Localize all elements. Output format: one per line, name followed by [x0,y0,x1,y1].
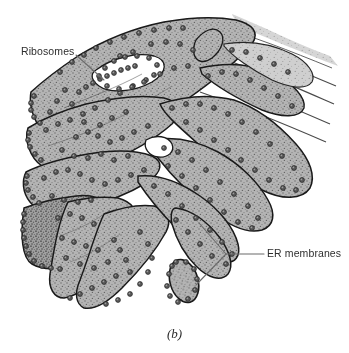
figure-caption: (b) [0,326,349,342]
cisterna-folded-lower [22,196,169,309]
label-ribosomes: Ribosomes [21,46,74,57]
label-er-membranes: ER membranes [267,248,341,259]
figure-rough-er: Ribosomes ER membranes (b) [0,0,349,353]
er-body [21,14,338,308]
